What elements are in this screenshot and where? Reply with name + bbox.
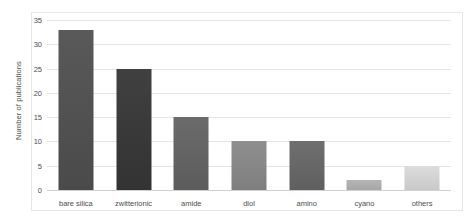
plot-area: 05101520253035 bare silicazwitterionicam… [47,20,451,190]
y-axis-tick-label: 10 [34,137,42,146]
bar-group: cyano [336,20,394,190]
bar-group: zwitterionic [105,20,163,190]
bar [58,30,93,190]
gridline: 0 [47,190,451,191]
y-axis-title: Number of publications [14,36,23,166]
y-axis-tick-label: 0 [38,186,42,195]
bar [289,141,324,190]
bar [405,166,440,190]
bar-group: amino [278,20,336,190]
bar [347,180,382,190]
x-axis-tick-label: others [412,199,433,208]
x-axis-tick-label: amide [181,199,201,208]
bar-chart-figure: Number of publications 05101520253035 ba… [0,0,472,223]
x-axis-tick-label: diol [243,199,255,208]
bar-group: others [393,20,451,190]
bar [231,141,266,190]
x-axis-tick-label: zwitterionic [115,199,152,208]
y-axis-tick-label: 30 [34,40,42,49]
x-axis-tick-label: amino [296,199,316,208]
bars-group: bare silicazwitterionicamidediolaminocya… [47,20,451,190]
y-axis-tick-label: 20 [34,88,42,97]
bar-group: bare silica [47,20,105,190]
y-axis-tick-label: 5 [38,161,42,170]
bar-group: diol [220,20,278,190]
y-axis-tick-label: 15 [34,113,42,122]
y-axis-tick-label: 35 [34,16,42,25]
bar [174,117,209,190]
x-axis-tick-label: bare silica [59,199,93,208]
y-axis-tick-label: 25 [34,64,42,73]
x-axis-tick-label: cyano [354,199,374,208]
bar [116,69,151,190]
bar-group: amide [162,20,220,190]
